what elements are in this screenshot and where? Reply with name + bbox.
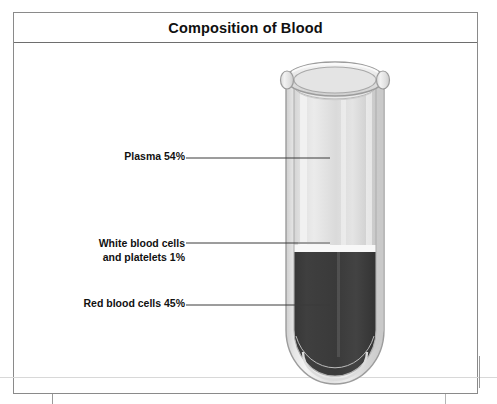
page-rule-horizontal [0, 377, 497, 378]
page-rule-tick-left [52, 394, 53, 404]
callout-label-white-blood-cells: White blood cells and platelets 1% [40, 237, 185, 264]
callout-label-red-blood-cells: Red blood cells 45% [40, 297, 185, 311]
page-rule-vertical-right [479, 356, 480, 388]
page-rule-tick-right [445, 394, 446, 404]
figure-title-bar: Composition of Blood [14, 13, 477, 43]
callout-label-plasma: Plasma 54% [60, 150, 185, 164]
page-title: Composition of Blood [168, 20, 322, 36]
figure-frame: Composition of Blood [13, 12, 478, 394]
